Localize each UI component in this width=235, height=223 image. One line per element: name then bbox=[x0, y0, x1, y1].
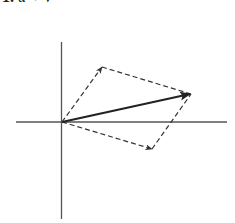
vector-diagram bbox=[0, 0, 235, 223]
resultant-vector bbox=[62, 94, 190, 122]
lower-vector bbox=[62, 122, 152, 149]
parallelogram-top-edge bbox=[102, 67, 191, 94]
